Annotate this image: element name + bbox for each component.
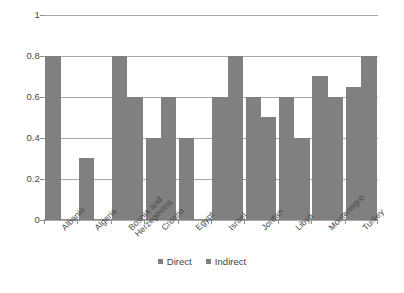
- bar-direct: [312, 76, 327, 220]
- bar-group: [244, 15, 277, 220]
- bar-group: [178, 15, 211, 220]
- bar-group: [111, 15, 144, 220]
- bar-direct: [212, 97, 227, 220]
- bar-indirect: [361, 56, 376, 220]
- bars-layer: [44, 15, 378, 220]
- legend-swatch-icon: [158, 259, 163, 264]
- bar-group: [144, 15, 177, 220]
- bar-direct: [112, 56, 127, 220]
- bar-group: [44, 15, 77, 220]
- y-tick-label: 1: [6, 10, 40, 20]
- legend-item-direct[interactable]: Direct: [158, 256, 192, 267]
- legend-label: Direct: [167, 256, 192, 267]
- bar-indirect: [328, 97, 343, 220]
- y-tick-label: 0: [6, 215, 40, 225]
- legend-item-indirect[interactable]: Indirect: [206, 256, 246, 267]
- legend-swatch-icon: [206, 259, 211, 264]
- y-tick-label: 0.2: [6, 174, 40, 184]
- bar-direct: [246, 97, 261, 220]
- bar-direct: [279, 97, 294, 220]
- chart-legend: DirectIndirect: [0, 256, 404, 267]
- y-tick-label: 0.4: [6, 133, 40, 143]
- bar-indirect: [261, 117, 276, 220]
- bar-group: [77, 15, 110, 220]
- bar-group: [211, 15, 244, 220]
- bar-group: [278, 15, 311, 220]
- y-tick-label: 0.8: [6, 51, 40, 61]
- bar-indirect: [228, 56, 243, 220]
- bar-indirect: [294, 138, 309, 220]
- bar-indirect: [127, 97, 142, 220]
- legend-label: Indirect: [215, 256, 246, 267]
- bar-group: [345, 15, 378, 220]
- bar-chart: AlbaniaAlgeriaBosnia andHerzegovinaCroat…: [0, 0, 404, 293]
- bar-group: [311, 15, 344, 220]
- bar-direct: [45, 56, 60, 220]
- y-tick-label: 0.6: [6, 92, 40, 102]
